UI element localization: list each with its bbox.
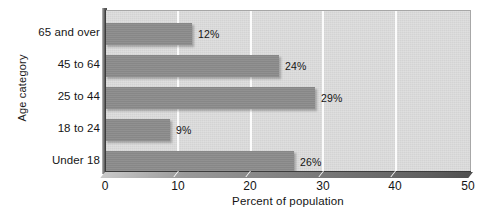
bar-18-to-24[interactable] (105, 119, 170, 141)
category-axis-labels: 65 and over 45 to 64 25 to 44 18 to 24 U… (12, 10, 100, 172)
bar-value-18-to-24: 9% (176, 124, 191, 136)
xtick-label-0: 0 (85, 179, 125, 193)
x-axis-title: Percent of population (105, 195, 471, 207)
plot-right-border (470, 10, 471, 172)
y-axis-line (105, 10, 106, 173)
category-label-45-to-64: 45 to 64 (12, 58, 100, 70)
xtick-label-30: 30 (303, 179, 343, 193)
bar-value-45-to-64: 24% (285, 60, 306, 72)
xtick-label-50: 50 (448, 179, 488, 193)
xtick-label-10: 10 (158, 179, 198, 193)
category-label-25-to-44: 25 to 44 (12, 90, 100, 102)
category-label-under-18: Under 18 (12, 154, 100, 166)
bar-texture (105, 55, 279, 77)
bar-texture (105, 151, 294, 173)
x-axis-line (105, 171, 471, 172)
bar-65-and-over[interactable] (105, 23, 192, 45)
bar-under-18[interactable] (105, 151, 294, 173)
x-axis-bevel (100, 172, 473, 178)
bar-texture (105, 87, 315, 109)
bar-value-65-and-over: 12% (198, 28, 219, 40)
gridline-30 (322, 10, 324, 172)
plot-area: 12% 24% 29% 9% 26% (105, 10, 470, 172)
bar-25-to-44[interactable] (105, 87, 315, 109)
xtick-label-20: 20 (230, 179, 270, 193)
xtick-label-40: 40 (375, 179, 415, 193)
bar-value-25-to-44: 29% (321, 92, 342, 104)
bar-texture (105, 119, 170, 141)
bar-chart: Age category 65 and over 45 to 64 25 to … (0, 0, 491, 215)
category-label-18-to-24: 18 to 24 (12, 122, 100, 134)
gridline-40 (395, 10, 397, 172)
bar-45-to-64[interactable] (105, 55, 279, 77)
bar-value-under-18: 26% (300, 156, 321, 168)
plot-top-border (105, 10, 471, 11)
category-label-65-and-over: 65 and over (12, 26, 100, 38)
bar-texture (105, 23, 192, 45)
